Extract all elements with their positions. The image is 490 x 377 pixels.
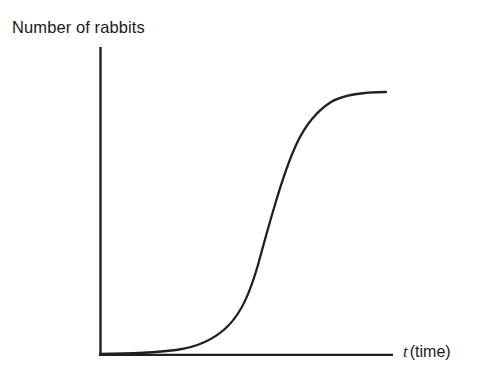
x-axis-title: t(time) bbox=[403, 342, 451, 362]
x-axis-variable-symbol: t bbox=[403, 342, 410, 361]
logistic-growth-curve bbox=[100, 92, 386, 354]
x-axis-unit-label: (time) bbox=[410, 343, 451, 360]
figure-canvas: Number of rabbits t(time) bbox=[0, 0, 490, 377]
plot-area bbox=[0, 0, 490, 377]
